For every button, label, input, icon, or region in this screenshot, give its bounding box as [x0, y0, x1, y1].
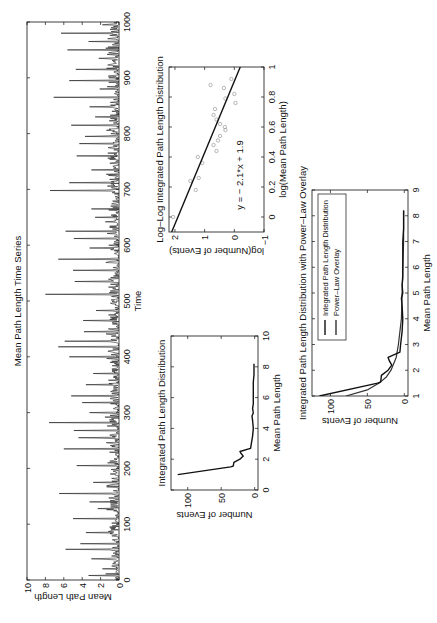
y-tick-label: 50 — [217, 493, 227, 503]
x-tick-label: 800 — [122, 126, 132, 141]
x-tick-label: 0.6 — [267, 121, 277, 134]
x-tick-label: 6 — [261, 395, 271, 400]
data-point — [222, 86, 225, 89]
plot-area — [178, 364, 254, 475]
x-tick-label: 0.4 — [267, 151, 277, 164]
x-tick-label: 5 — [411, 290, 421, 295]
y-axis-label: Mean Path Length — [34, 592, 112, 603]
x-tick-label: 3 — [411, 342, 421, 347]
plot-area — [171, 67, 240, 232]
data-point — [209, 83, 212, 86]
legend-entry: Power–Law Overlay — [332, 249, 341, 316]
x-tick-label: 0.8 — [267, 91, 277, 104]
x-tick-label: 4 — [411, 316, 421, 321]
figure: 010020030040050060070080090010000246810M… — [0, 0, 437, 623]
y-tick-label: 4 — [78, 583, 88, 588]
data-point — [218, 134, 221, 137]
y-tick-label: 0 — [115, 583, 125, 588]
x-tick-label: 9 — [411, 187, 421, 192]
y-tick-label: 10 — [23, 583, 33, 593]
x-tick-label: 0.2 — [267, 181, 277, 194]
data-point — [215, 149, 218, 152]
y-tick-label: 0 — [230, 235, 240, 240]
y-tick-label: 100 — [326, 399, 336, 414]
plot-frame — [27, 22, 119, 580]
data-point — [194, 188, 197, 191]
x-tick-label: 8 — [261, 364, 271, 369]
x-tick-label: 8 — [411, 213, 421, 218]
data-point — [197, 176, 200, 179]
y-tick-label: 6 — [59, 583, 69, 588]
data-point — [233, 92, 236, 95]
x-tick-label: 100 — [122, 517, 132, 532]
y-tick-label: 1 — [200, 235, 210, 240]
x-tick-label: 0 — [261, 487, 271, 492]
data-point — [196, 155, 199, 158]
x-axis-label: log(Mean Path Length) — [277, 101, 288, 198]
x-axis-label: Mean Path Length — [421, 254, 432, 332]
plot-title: Integrated Path Length Distribution with… — [297, 166, 308, 420]
x-tick-label: 0 — [122, 577, 132, 582]
y-tick-label: 50 — [363, 399, 373, 409]
y-tick-label: 2 — [170, 235, 180, 240]
y-tick-label: −1 — [260, 235, 270, 245]
distribution-line — [178, 364, 254, 475]
y-axis-label: Number of Events — [176, 510, 252, 521]
x-axis-label: Time — [132, 291, 143, 312]
y-tick-label: 8 — [41, 583, 51, 588]
plot-title: Log–Log Integrated Path Length Distribut… — [154, 56, 165, 242]
x-axis-label: Mean Path Length — [271, 374, 282, 452]
data-point — [230, 77, 233, 80]
data-point — [234, 101, 237, 104]
x-tick-label: 1 — [411, 393, 421, 398]
y-tick-label: 0 — [250, 493, 260, 498]
x-tick-label: 2 — [411, 368, 421, 373]
x-tick-label: 7 — [411, 239, 421, 244]
x-tick-label: 700 — [122, 182, 132, 197]
legend-entry: Integrated Path Length Distribution — [321, 200, 330, 316]
plot-frame — [171, 336, 258, 490]
plot-area — [45, 22, 119, 580]
fit-line — [172, 67, 241, 232]
x-tick-label: 4 — [261, 426, 271, 431]
plot-power_law_overlay: 123456789050100Integrated Path Length Di… — [297, 166, 432, 427]
data-point — [212, 143, 215, 146]
plot-time_series: 010020030040050060070080090010000246810M… — [12, 12, 143, 603]
y-tick-label: 2 — [96, 583, 106, 588]
plot-title: Integrated Path Length Distribution — [156, 340, 167, 487]
x-tick-label: 1000 — [122, 12, 132, 32]
x-tick-label: 6 — [411, 265, 421, 270]
y-axis-label: Number of Events — [322, 416, 398, 427]
data-point — [218, 122, 221, 125]
data-point — [216, 139, 219, 142]
data-point — [213, 107, 216, 110]
y-tick-label: 0 — [400, 399, 410, 404]
x-tick-label: 900 — [122, 70, 132, 85]
time-series-line — [45, 22, 119, 580]
x-tick-label: 10 — [261, 331, 271, 341]
x-tick-label: 400 — [122, 349, 132, 364]
power-law-line — [346, 211, 404, 396]
plot-loglog_distribution: 00.20.40.60.81−1012Log–Log Integrated Pa… — [154, 56, 288, 257]
x-tick-label: 1 — [267, 64, 277, 69]
plot-integrated_distribution: 0246810050100Integrated Path Length Dist… — [156, 331, 282, 521]
x-tick-label: 500 — [122, 293, 132, 308]
y-tick-label: 100 — [183, 493, 193, 508]
y-axis-label: log(Number of Events) — [169, 246, 264, 257]
plot-title: Mean Path Length Time Series — [12, 236, 23, 367]
data-point — [189, 179, 192, 182]
x-tick-label: 200 — [122, 461, 132, 476]
x-tick-label: 300 — [122, 405, 132, 420]
x-tick-label: 2 — [261, 457, 271, 462]
data-point — [212, 113, 215, 116]
x-tick-label: 600 — [122, 238, 132, 253]
fit-equation: y = − 2.1*x + 1.9 — [234, 140, 245, 209]
x-tick-label: 0 — [267, 214, 277, 219]
legend: Integrated Path Length DistributionPower… — [318, 194, 346, 340]
